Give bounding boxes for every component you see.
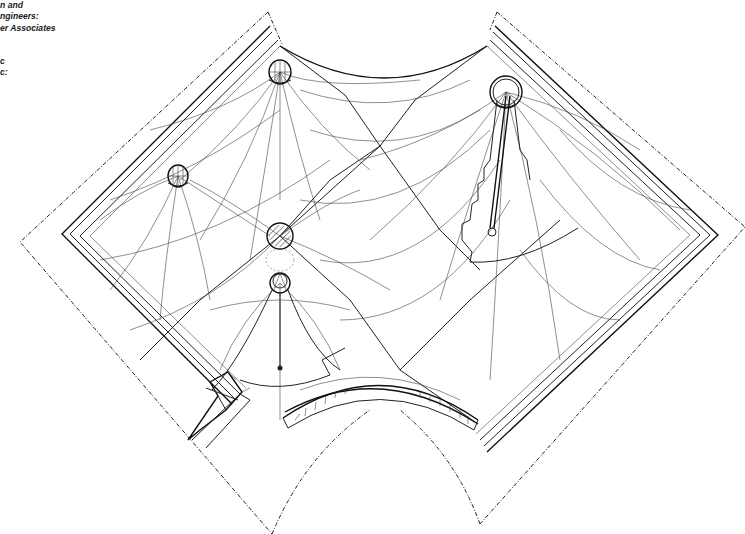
fabric-contours xyxy=(100,72,690,420)
perimeter-frame xyxy=(62,26,718,452)
tent-roof-drawing xyxy=(0,0,745,534)
right-mast-panel xyxy=(462,96,578,262)
mast-top-left xyxy=(269,60,291,84)
mast-left xyxy=(168,165,188,187)
site-ground-outline xyxy=(20,12,745,534)
mast-center xyxy=(266,223,294,271)
